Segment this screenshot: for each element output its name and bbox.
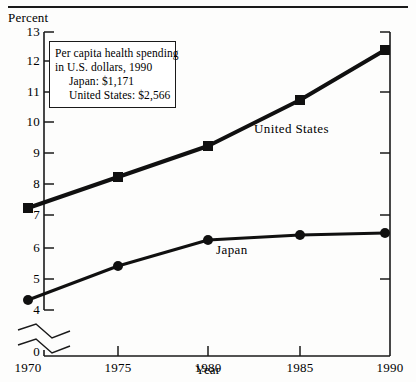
y-tick-label-8: 8 [8, 177, 40, 191]
annotation-line-3: Japan: $1,171 [55, 74, 170, 88]
x-tick-label-1980: 1980 [195, 361, 222, 375]
y-tick-label-13: 13 [8, 25, 40, 39]
series-label-united-states: United States [254, 121, 329, 136]
annotation-line-2: in U.S. dollars, 1990 [55, 60, 170, 74]
y-tick-label-5: 5 [8, 272, 40, 286]
annotation-line-4: United States: $2,566 [55, 88, 170, 102]
y-tick-label-4: 4 [8, 303, 40, 317]
y-tick-label-11: 11 [8, 85, 40, 99]
x-tick-label-1975: 1975 [105, 361, 132, 375]
annotation-box: Per capita health spending in U.S. dolla… [49, 41, 176, 108]
axis-break-zigzag-upper [18, 324, 70, 338]
y-tick-label-12: 12 [8, 54, 40, 68]
y-axis-ticks-right [380, 32, 390, 279]
series-markers-japan [23, 228, 390, 305]
x-tick-label-1970: 1970 [15, 361, 42, 375]
y-tick-label-0: 0 [8, 345, 40, 359]
chart-figure: Percent Year [0, 0, 416, 382]
y-tick-label-7: 7 [8, 208, 40, 222]
y-tick-label-10: 10 [8, 115, 40, 129]
x-axis-ticks [118, 346, 300, 356]
y-tick-label-6: 6 [8, 241, 40, 255]
x-tick-label-1985: 1985 [287, 361, 314, 375]
series-label-japan: Japan [216, 242, 248, 257]
y-tick-label-9: 9 [8, 146, 40, 160]
annotation-line-1: Per capita health spending [55, 46, 170, 60]
x-tick-label-1990: 1990 [377, 361, 404, 375]
